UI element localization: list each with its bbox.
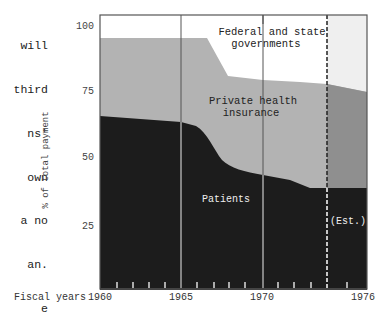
govt-label-line1: Federal and state [218,26,325,38]
private-label-line1: Private health [209,95,297,107]
x-axis-caption: Fiscal years [14,292,86,303]
x-tick-1976: 1976 [351,292,375,303]
private-label-line2: insurance [223,107,280,119]
estimate-label: (Est.) [330,216,366,227]
govt-label-line2: governments [231,38,300,50]
patients-label: Patients [202,194,250,205]
x-tick-1960: 1960 [88,292,112,303]
x-tick-1965: 1965 [169,292,193,303]
area-chart: Federal and state governments Private he… [0,0,377,312]
x-tick-1970: 1970 [250,292,274,303]
